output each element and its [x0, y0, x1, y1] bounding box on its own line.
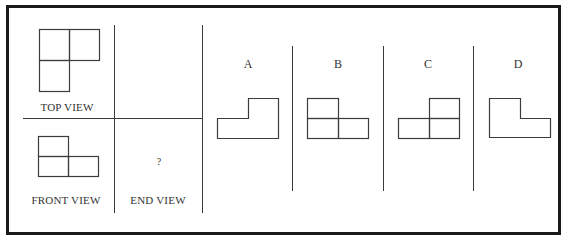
option-a-shape — [217, 98, 279, 139]
views-options-divider — [202, 25, 203, 213]
end-view-question-mark: ? — [157, 156, 162, 167]
top-view-drawing — [39, 29, 101, 93]
view-grid-horizontal-divider — [23, 118, 203, 119]
option-c-letter: C — [424, 57, 432, 72]
option-a-letter: A — [244, 57, 253, 72]
top-view-label: TOP VIEW — [40, 101, 93, 113]
option-b-letter: B — [334, 57, 342, 72]
front-view-drawing — [38, 136, 100, 178]
option-d-shape — [489, 98, 551, 139]
end-view-label: END VIEW — [130, 194, 185, 206]
option-separator-bc — [383, 46, 384, 191]
option-separator-cd — [473, 46, 474, 191]
front-view-label: FRONT VIEW — [31, 194, 100, 206]
option-c-shape — [398, 98, 460, 139]
option-d-letter: D — [514, 57, 523, 72]
option-b-shape — [307, 98, 369, 139]
option-separator-ab — [292, 46, 293, 191]
view-grid-vertical-divider — [114, 25, 115, 213]
